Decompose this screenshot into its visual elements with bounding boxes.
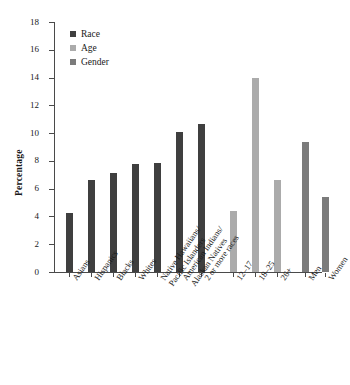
bar — [132, 164, 139, 272]
y-tick-label: 18 — [30, 18, 39, 27]
y-axis-tick-labels: 024681012141618 — [46, 22, 47, 272]
legend-label: Gender — [81, 57, 109, 67]
legend-item: Gender — [70, 55, 160, 68]
y-tick-label: 2 — [35, 240, 40, 249]
legend-label: Age — [81, 43, 97, 53]
bar — [302, 142, 309, 272]
bar — [274, 180, 281, 272]
y-tick-label: 16 — [30, 45, 39, 54]
y-axis-label: Percentage — [14, 182, 24, 196]
legend-swatch-icon — [70, 45, 76, 51]
y-tick-label: 12 — [30, 101, 39, 110]
legend-item: Race — [70, 27, 160, 40]
bar — [252, 78, 259, 272]
y-tick — [49, 272, 54, 273]
legend: RaceAgeGender — [70, 27, 160, 69]
y-tick-label: 0 — [35, 268, 40, 277]
y-tick-label: 4 — [35, 212, 40, 221]
bar — [88, 180, 95, 272]
legend-item: Age — [70, 41, 160, 54]
legend-label: Race — [81, 29, 100, 39]
bar — [66, 213, 73, 272]
x-axis-tick-labels: AsiansHispanicsBlacksWhitesNative Hawaii… — [54, 277, 338, 385]
bar — [322, 197, 329, 272]
y-tick-label: 8 — [35, 156, 40, 165]
bar — [154, 163, 161, 272]
y-tick-label: 6 — [35, 184, 40, 193]
x-tick-label: Women — [327, 255, 350, 282]
y-tick-label: 10 — [30, 129, 39, 138]
legend-swatch-icon — [70, 31, 76, 37]
legend-swatch-icon — [70, 59, 76, 65]
y-tick-label: 14 — [30, 73, 39, 82]
